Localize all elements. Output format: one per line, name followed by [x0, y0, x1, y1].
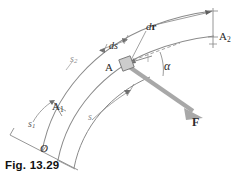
inner-arc-path	[74, 77, 150, 168]
label-force-f: F	[192, 116, 199, 128]
figure-caption: Fig. 13.29	[5, 159, 59, 171]
label-origin-o: O	[40, 143, 48, 154]
origin-radial-line	[57, 160, 75, 169]
label-dr: dr	[146, 21, 156, 32]
label-s: s	[88, 112, 92, 122]
alpha-angle-arc	[160, 52, 163, 76]
a2-top-leader-line	[150, 12, 210, 26]
label-s2: s2	[70, 54, 77, 65]
s-measure-arc	[92, 92, 128, 120]
label-point-a: A	[105, 62, 113, 73]
force-vector-shaft	[128, 66, 193, 111]
label-a1: A1	[52, 101, 64, 113]
label-alpha: α	[164, 60, 170, 72]
s1-measure-arc	[33, 101, 53, 122]
figure-container: s2 s1 s A1 A2 A ds dr α F O Fig. 13.29	[0, 0, 238, 177]
label-a2: A2	[219, 31, 231, 43]
middle-arc-path	[58, 36, 214, 160]
tangent-dashed-line	[128, 43, 180, 62]
figure-drawing	[0, 0, 238, 177]
label-s1: s1	[28, 119, 35, 130]
start-bracket-tick-outer	[10, 128, 14, 135]
label-ds: ds	[109, 41, 118, 51]
